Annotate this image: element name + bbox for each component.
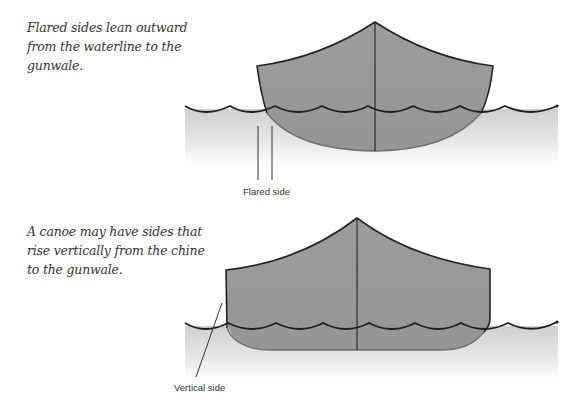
flared-side-label: Flared side [243,186,290,197]
vertical-side-label: Vertical side [174,382,225,393]
vertical-side-diagram [185,218,559,382]
hull-vertical [226,218,490,350]
canoe-cross-section-diagrams [0,0,577,413]
wave-end-dot [555,104,558,107]
flared-side-diagram [185,22,559,180]
wave-end-dot [555,320,558,323]
